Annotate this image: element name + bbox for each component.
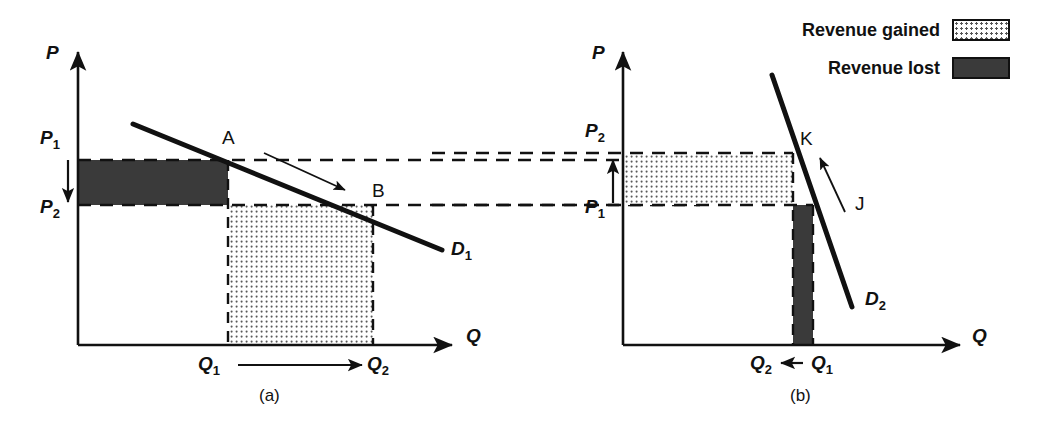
panel-b-curve-label-d2: D2 bbox=[865, 288, 886, 313]
panel-a-caption: (a) bbox=[259, 386, 280, 406]
panel-a-x-axis-label: Q bbox=[466, 325, 481, 347]
panel-b-point-label-j: J bbox=[855, 193, 865, 215]
panel-b-movement-arrow bbox=[820, 158, 845, 212]
legend-label-revenue-gained: Revenue gained bbox=[802, 20, 940, 41]
panel-a-group bbox=[68, 52, 700, 365]
panel-b-quantity-label-q2: Q2 bbox=[750, 352, 772, 377]
panel-b-x-axis-label: Q bbox=[972, 325, 987, 347]
panel-a-quantity-label-q2: Q2 bbox=[367, 353, 389, 378]
panel-a-point-label-b: B bbox=[372, 180, 385, 202]
panel-b-price-label-p2: P2 bbox=[585, 120, 605, 145]
panel-b-group bbox=[432, 52, 960, 363]
panel-a-revenue-lost-region bbox=[78, 160, 228, 205]
panel-b-y-axis-label: P bbox=[592, 42, 605, 64]
panel-a-curve-label-d1: D1 bbox=[451, 238, 472, 263]
panel-a-revenue-gained-region bbox=[228, 205, 373, 345]
panel-a-price-label-p1: P1 bbox=[40, 127, 60, 152]
panel-b-quantity-label-q1: Q1 bbox=[811, 352, 833, 377]
panel-b-price-label-p1: P1 bbox=[585, 196, 605, 221]
legend-item-revenue-gained: Revenue gained bbox=[802, 19, 1010, 41]
legend-item-revenue-lost: Revenue lost bbox=[828, 57, 1010, 79]
legend-swatch-revenue-gained bbox=[952, 19, 1010, 41]
panel-a-point-label-a: A bbox=[222, 127, 235, 149]
panel-b-point-label-k: K bbox=[800, 128, 813, 150]
panel-a-quantity-label-q1: Q1 bbox=[198, 353, 220, 378]
legend-swatch-revenue-lost bbox=[952, 57, 1010, 79]
panel-b-revenue-gained-region bbox=[623, 153, 793, 205]
panel-a-price-label-p2: P2 bbox=[40, 196, 60, 221]
panel-a-y-axis-label: P bbox=[46, 42, 59, 64]
legend-label-revenue-lost: Revenue lost bbox=[828, 58, 940, 79]
panel-b-revenue-lost-region bbox=[793, 205, 813, 345]
figure-canvas: Revenue gained Revenue lost P Q P1 P2 Q1… bbox=[0, 0, 1043, 431]
panel-b-caption: (b) bbox=[790, 386, 811, 406]
